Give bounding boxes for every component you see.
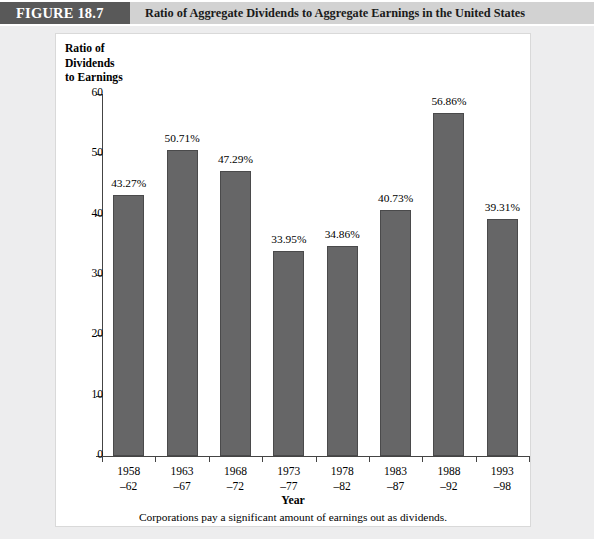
x-category-label-line-2: –98: [467, 479, 537, 494]
chart-panel: Ratio of Dividends to Earnings 010203040…: [55, 33, 531, 527]
y-tick: 0: [56, 456, 103, 457]
bar: [273, 251, 304, 456]
bar: [113, 195, 144, 456]
bar-value-label: 50.71%: [147, 132, 217, 144]
y-tick: 30: [56, 275, 103, 276]
x-tick-mark: [369, 456, 370, 462]
y-tick-label: 0: [67, 448, 103, 460]
y-tick: 20: [56, 335, 103, 336]
x-tick-mark: [209, 456, 210, 462]
figure-header: FIGURE 18.7 Ratio of Aggregate Dividends…: [0, 0, 594, 26]
x-tick-mark: [476, 456, 477, 462]
y-tick-label: 10: [67, 388, 103, 400]
bar: [327, 246, 358, 456]
bar-value-label: 39.31%: [467, 201, 537, 213]
y-tick: 10: [56, 396, 103, 397]
bar-value-label: 47.29%: [200, 153, 270, 165]
bar-value-label: 56.86%: [414, 95, 484, 107]
x-tick-mark: [155, 456, 156, 462]
x-tick-mark: [316, 456, 317, 462]
x-tick-mark: [529, 456, 530, 462]
y-tick-label: 50: [67, 146, 103, 158]
y-tick: 40: [56, 215, 103, 216]
y-tick-label: 40: [67, 207, 103, 219]
bar-value-label: 34.86%: [307, 228, 377, 240]
x-axis-title: Year: [56, 493, 530, 508]
y-tick-label: 60: [67, 86, 103, 98]
figure-number-block: FIGURE 18.7: [0, 2, 130, 24]
bar: [220, 171, 251, 456]
x-tick-mark: [262, 456, 263, 462]
figure-container: FIGURE 18.7 Ratio of Aggregate Dividends…: [0, 0, 594, 539]
bar: [167, 150, 198, 456]
bar: [380, 210, 411, 456]
y-tick-label: 30: [67, 267, 103, 279]
bar-value-label: 43.27%: [94, 177, 164, 189]
figure-title-text: Ratio of Aggregate Dividends to Aggregat…: [145, 6, 525, 21]
bar: [433, 113, 464, 456]
y-tick-label: 20: [67, 327, 103, 339]
x-category-label-line-1: 1993: [467, 464, 537, 479]
x-tick-mark: [102, 456, 103, 462]
y-tick: 50: [56, 154, 103, 155]
bar: [487, 219, 518, 456]
chart-caption: Corporations pay a significant amount of…: [56, 511, 530, 523]
figure-title-band: Ratio of Aggregate Dividends to Aggregat…: [130, 2, 594, 24]
x-category-label: 1993–98: [467, 464, 537, 494]
bar-value-label: 40.73%: [361, 192, 431, 204]
y-tick: 60: [56, 94, 103, 95]
figure-number-label: FIGURE 18.7: [16, 5, 104, 22]
x-tick-mark: [422, 456, 423, 462]
plot-area: 0102030405060 43.27%50.71%47.29%33.95%34…: [56, 34, 530, 526]
